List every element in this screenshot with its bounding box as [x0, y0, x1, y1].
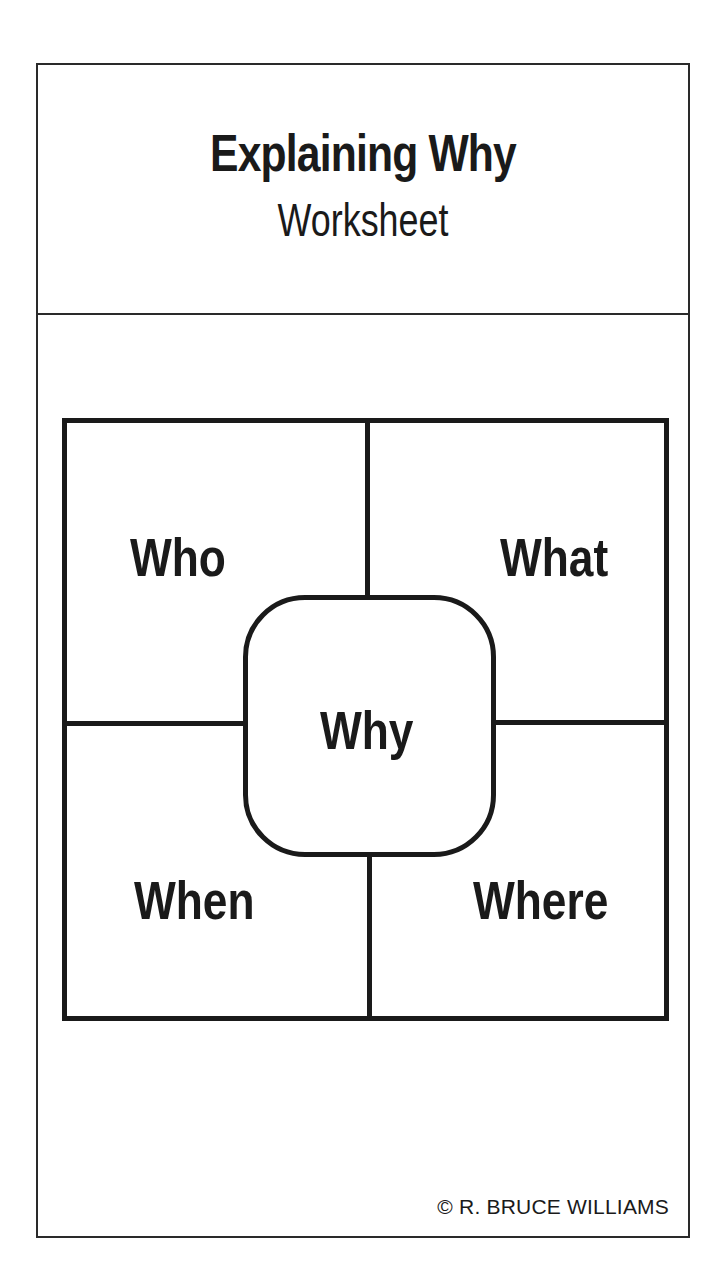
worksheet-header: Explaining Why Worksheet: [38, 65, 688, 315]
grid-divider-right: [493, 720, 667, 725]
copyright-notice: © R. BRUCE WILLIAMS: [437, 1195, 669, 1219]
worksheet-subtitle: Worksheet: [110, 197, 617, 243]
quadrant-who-label: Who: [130, 530, 226, 584]
quadrant-when-label: When: [134, 873, 255, 927]
center-why-label: Why: [320, 703, 413, 757]
grid-divider-top: [365, 420, 370, 600]
grid-divider-left: [64, 721, 246, 726]
quadrant-where-label: Where: [473, 873, 608, 927]
worksheet-title: Explaining Why: [97, 127, 630, 179]
grid-divider-bottom: [367, 852, 372, 1018]
quadrant-what-label: What: [500, 530, 608, 584]
